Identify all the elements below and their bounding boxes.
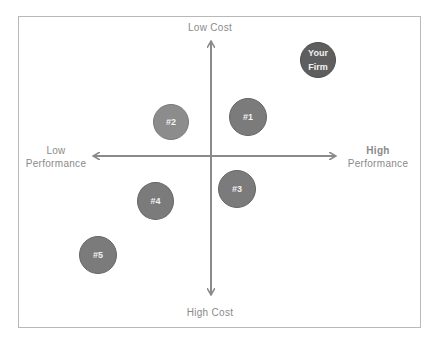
axis-label-low-performance: Low Performance: [18, 144, 94, 170]
axis-label-low-performance-line1: Low: [18, 144, 94, 157]
bubble-your-firm: Your Firm: [300, 42, 336, 78]
axis-label-low-performance-line2: Performance: [18, 157, 94, 170]
bubble-competitor-3: #3: [218, 170, 256, 208]
axis-label-high-performance: High Performance: [340, 144, 416, 170]
axis-label-high-performance-line2: Performance: [340, 157, 416, 170]
bubble-competitor-1: #1: [229, 98, 267, 136]
bubble-competitor-4: #4: [137, 182, 174, 220]
bubble-competitor-5: #5: [79, 236, 117, 274]
axis-label-high-cost: High Cost: [170, 306, 250, 319]
axis-label-high-performance-line1: High: [340, 144, 416, 157]
bubble-competitor-2: #2: [153, 104, 189, 140]
axes: [0, 0, 439, 343]
axis-label-low-cost: Low Cost: [170, 21, 250, 34]
